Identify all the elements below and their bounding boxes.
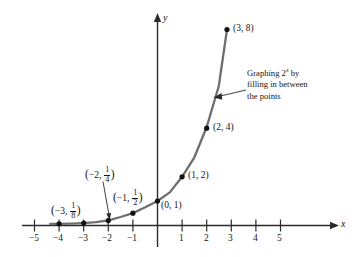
x-tick-label-4: 4: [253, 234, 258, 244]
fraction-numerator-neg3: 1: [70, 202, 76, 211]
paren-close-neg2: ): [111, 168, 115, 180]
x-tick-label-1: 1: [179, 234, 184, 244]
paren-close-neg1: ): [139, 191, 143, 203]
paren-close-2-4: ): [230, 122, 233, 132]
fraction-denominator-neg3: 8: [70, 211, 76, 221]
fraction-numerator-neg1: 1: [132, 189, 138, 198]
paren-close-0-1: ): [178, 200, 181, 210]
annotation-text-post: by: [289, 68, 300, 78]
point-label-neg3-eighth: (−3, 18): [51, 202, 81, 220]
point-neg3: [81, 221, 86, 226]
point-leader-line: [103, 182, 111, 221]
note-leader-segment: [219, 90, 247, 97]
x-tick-label-5: 5: [277, 234, 282, 244]
x-axis-label: x: [341, 219, 345, 229]
y-axis-arrowhead: [154, 13, 161, 22]
x-tick-label-neg5: −5: [29, 234, 39, 244]
point-x-neg1: −1,: [117, 193, 132, 203]
point-3: [224, 27, 229, 32]
fraction-denominator-neg1: 2: [132, 198, 138, 208]
point-2: [204, 126, 209, 131]
x-axis-arrowhead: [330, 222, 339, 229]
annotation-text-pre: Graphing 2: [247, 68, 286, 78]
point-1: [180, 174, 185, 179]
point-label-neg2-quarter: (−2, 14): [85, 166, 115, 184]
point-label-0-1: (0, 1): [161, 201, 182, 211]
point-neg2: [106, 218, 111, 223]
curve-annotation-line-1: Graphing 2x by: [247, 68, 308, 79]
curve-annotation-line-2: filling in between: [247, 79, 308, 90]
x-tick-label-neg1: −1: [127, 234, 137, 244]
point-label-3-8: (3, 8): [233, 24, 254, 34]
point-0: [155, 198, 160, 203]
x-tick-label-neg3: −3: [78, 234, 88, 244]
curve-annotation: Graphing 2x by filling in between the po…: [247, 68, 308, 102]
point-x-0-1: 0,: [164, 200, 174, 210]
fraction-denominator-neg2: 4: [104, 175, 110, 185]
fraction-one-half: 12: [132, 189, 138, 207]
exponential-graph-figure: −5 −4 −3 −2 −1 1 2 3 4 5 x y (3, 8) (2, …: [0, 0, 354, 257]
point-neg1: [130, 211, 135, 216]
point-neg4: [57, 221, 62, 226]
point-x-neg3: −3,: [55, 206, 70, 216]
fraction-numerator-neg2: 1: [104, 166, 110, 175]
point-label-neg1-half: (−1, 12): [113, 189, 143, 207]
y-axis: [154, 13, 161, 247]
x-tick-label-3: 3: [228, 234, 233, 244]
x-tick-label-2: 2: [204, 234, 209, 244]
x-tick-label-neg2: −2: [102, 234, 112, 244]
point-x-1-2: 1,: [191, 170, 201, 180]
paren-close-3-8: ): [250, 23, 253, 33]
x-tick-label-neg4: −4: [53, 234, 63, 244]
paren-close-1-2: ): [205, 170, 208, 180]
point-label-1-2: (1, 2): [188, 171, 209, 181]
data-points: [57, 27, 230, 227]
paren-close-neg3: ): [77, 204, 81, 216]
curve-annotation-line-3: the points: [247, 91, 308, 102]
y-axis-label: y: [163, 13, 167, 23]
point-x-neg2: −2,: [89, 170, 104, 180]
fraction-one-eighth: 18: [70, 202, 76, 220]
point-x-2-4: 2,: [216, 122, 226, 132]
point-label-2-4: (2, 4): [213, 123, 234, 133]
leader-line-neg2: [103, 182, 109, 216]
fraction-one-quarter: 14: [104, 166, 110, 184]
point-x-3-8: 3,: [236, 23, 246, 33]
